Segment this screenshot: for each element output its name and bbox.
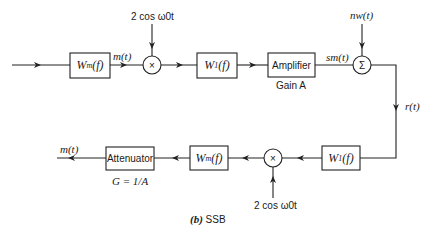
received-signal-label: r(t) [405, 100, 420, 112]
amplifier-label: Amplifier [268, 53, 315, 77]
adder-symbol: Σ [353, 56, 371, 74]
tx-w1-filter-label: W1(f) [197, 53, 237, 78]
noise-label: nw(t) [350, 9, 373, 21]
rx-w1-filter-label: W1(f) [322, 146, 360, 170]
channel-line [360, 65, 396, 158]
tx-lo-label: 2 cos ω0t [131, 11, 174, 23]
tx-wm-filter-label: Wm(f) [70, 53, 110, 78]
amplifier-gain-label: Gain A [276, 80, 306, 92]
output-signal-label: m(t) [60, 143, 78, 155]
attenuator-label: Attenuator [106, 147, 154, 170]
rx-wm-filter-label: Wm(f) [190, 146, 228, 170]
message-signal-label: m(t) [113, 50, 131, 62]
tx-mixer-symbol: × [143, 56, 161, 74]
attenuator-gain-label: G = 1/A [112, 175, 148, 187]
rx-mixer-symbol: × [264, 149, 282, 167]
figure-caption: (b) SSB [190, 213, 226, 226]
tx-signal-label: sm(t) [326, 51, 349, 63]
block-diagram-canvas [0, 0, 430, 239]
rx-lo-label: 2 cos ω0t [254, 200, 297, 212]
